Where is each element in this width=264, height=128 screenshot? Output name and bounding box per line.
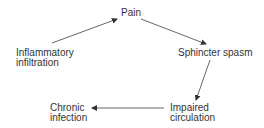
- node-pain: Pain: [121, 8, 141, 18]
- node-inflammatory-infiltration: Inflammatory infiltration: [16, 48, 74, 68]
- node-pain-label: Pain: [121, 8, 141, 18]
- arrow-pain-to-sphincter: [141, 19, 206, 44]
- node-sphincter-label: Sphincter spasm: [178, 48, 252, 58]
- node-label-line2: infiltration: [16, 58, 74, 68]
- node-label-line2: infection: [50, 113, 87, 123]
- node-impaired-circulation: Impaired circulation: [170, 103, 215, 123]
- arrow-inflammatory-to-pain: [52, 19, 117, 43]
- node-chronic-infection: Chronic infection: [50, 103, 87, 123]
- arrow-sphincter-to-impaired: [196, 60, 210, 100]
- node-sphincter-spasm: Sphincter spasm: [178, 48, 252, 58]
- node-label-line2: circulation: [170, 113, 215, 123]
